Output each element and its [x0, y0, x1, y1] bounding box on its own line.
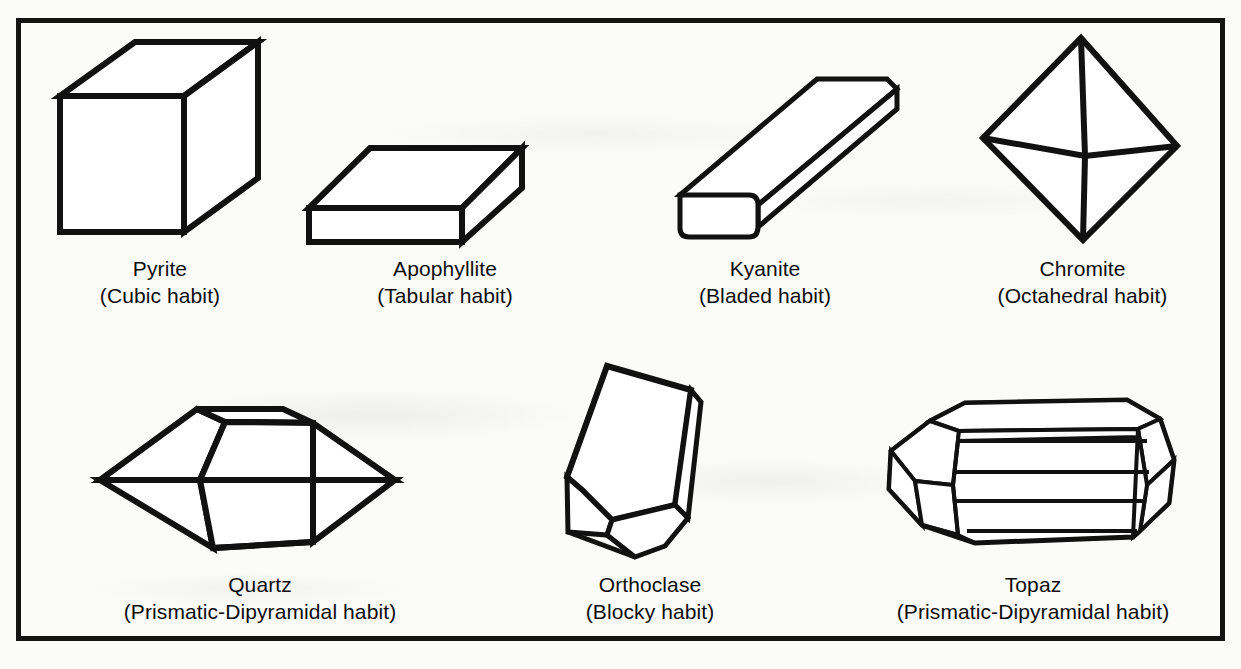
mineral-name-quartz: Quartz: [55, 572, 465, 599]
specimen-pyrite: [40, 26, 280, 256]
mineral-name-topaz: Topaz: [828, 572, 1238, 599]
apophyllite-tabular-icon: [295, 130, 595, 250]
mineral-name-pyrite: Pyrite: [25, 256, 295, 283]
chromite-octahedron-icon: [965, 28, 1190, 253]
caption-pyrite: Pyrite (Cubic habit): [25, 256, 295, 310]
mineral-name-kyanite: Kyanite: [630, 256, 900, 283]
specimen-kyanite: [625, 62, 915, 252]
orthoclase-blocky-icon: [555, 350, 735, 565]
caption-orthoclase: Orthoclase (Blocky habit): [520, 572, 780, 626]
mineral-name-chromite: Chromite: [945, 256, 1220, 283]
habit-label-orthoclase: (Blocky habit): [520, 599, 780, 626]
habit-label-pyrite: (Cubic habit): [25, 283, 295, 310]
specimen-quartz: [85, 396, 435, 561]
caption-apophyllite: Apophyllite (Tabular habit): [300, 256, 590, 310]
quartz-prismatic-dipyramid-icon: [85, 396, 435, 561]
topaz-multifaceted-prism-icon: [875, 385, 1185, 560]
habit-label-quartz: (Prismatic-Dipyramidal habit): [55, 599, 465, 626]
habit-label-kyanite: (Bladed habit): [630, 283, 900, 310]
pyrite-cube-icon: [40, 26, 280, 256]
habit-label-apophyllite: (Tabular habit): [300, 283, 590, 310]
caption-quartz: Quartz (Prismatic-Dipyramidal habit): [55, 572, 465, 626]
specimen-chromite: [965, 28, 1190, 253]
mineral-name-apophyllite: Apophyllite: [300, 256, 590, 283]
habit-label-topaz: (Prismatic-Dipyramidal habit): [828, 599, 1238, 626]
mineral-name-orthoclase: Orthoclase: [520, 572, 780, 599]
caption-chromite: Chromite (Octahedral habit): [945, 256, 1220, 310]
caption-kyanite: Kyanite (Bladed habit): [630, 256, 900, 310]
specimen-apophyllite: [295, 130, 595, 250]
specimen-topaz: [875, 385, 1185, 560]
kyanite-bladed-icon: [625, 62, 915, 252]
habit-label-chromite: (Octahedral habit): [945, 283, 1220, 310]
crystal-habits-figure-page: Pyrite (Cubic habit) Apophyllite (Tabula…: [0, 0, 1241, 669]
specimen-orthoclase: [555, 350, 735, 565]
caption-topaz: Topaz (Prismatic-Dipyramidal habit): [828, 572, 1238, 626]
